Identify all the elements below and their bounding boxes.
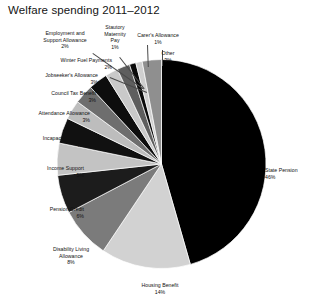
slice-label-statutory-maternity-pct: 1% xyxy=(111,44,119,50)
slice-label-employment-support-pct: 2% xyxy=(61,43,69,49)
slice-label-attendance-allowance-name: Attendance Allowance xyxy=(39,110,90,116)
slice-label-state-pension-name: State Pension xyxy=(265,167,298,173)
slice-label-pension-credit: Pension Credit6% xyxy=(16,206,84,219)
slice-label-pension-credit-name: Pension Credit xyxy=(50,206,84,212)
slice-label-employment-support-name: Employment and Support Allowance xyxy=(43,30,86,43)
slice-label-pension-credit-pct: 6% xyxy=(76,213,84,219)
slice-label-housing-benefit-pct: 14% xyxy=(155,289,165,295)
slice-label-incapacity-benefit-pct: 4% xyxy=(76,142,84,148)
slice-label-winter-fuel: Winter Fuel Payments2% xyxy=(30,57,112,70)
slice-label-other: Other3% xyxy=(151,50,185,63)
slice-label-state-pension-pct: 46% xyxy=(265,174,275,180)
slice-label-jobseekers-pct: 3% xyxy=(90,79,98,85)
slice-label-income-support-name: Income Support xyxy=(47,165,84,171)
slice-label-attendance-allowance-pct: 3% xyxy=(82,117,90,123)
slice-label-incapacity-benefit: Incapacity Benefit4% xyxy=(8,135,84,148)
slice-label-incapacity-benefit-name: Incapacity Benefit xyxy=(43,135,84,141)
slice-label-disability-living-pct: 8% xyxy=(67,259,75,265)
slice-label-other-pct: 3% xyxy=(164,57,172,63)
slice-label-winter-fuel-pct: 2% xyxy=(104,64,112,70)
slice-label-jobseekers: Jobseeker's Allowance3% xyxy=(12,72,98,85)
slice-label-other-name: Other xyxy=(161,50,174,56)
slice-label-income-support-pct: 5% xyxy=(76,172,84,178)
slice-label-winter-fuel-name: Winter Fuel Payments xyxy=(61,57,112,63)
slice-label-jobseekers-name: Jobseeker's Allowance xyxy=(45,72,98,78)
slice-label-employment-support: Employment and Support Allowance2% xyxy=(32,30,98,50)
slice-label-disability-living-name: Disability Living Allowance xyxy=(53,246,89,259)
slice-label-carers-allowance: Carer's Allowance1% xyxy=(129,32,187,45)
slice-label-council-tax-pct: 3% xyxy=(88,97,96,103)
slice-label-statutory-maternity-name: Stautory Maternity Pay xyxy=(104,24,126,43)
slice-label-carers-allowance-name: Carer's Allowance xyxy=(137,32,179,38)
slice-label-income-support: Income Support5% xyxy=(14,165,84,178)
slice-label-state-pension: State Pension46% xyxy=(265,167,321,180)
slice-label-housing-benefit: Housing Benefit14% xyxy=(123,282,197,295)
slice-label-carers-allowance-pct: 1% xyxy=(154,39,162,45)
slice-label-council-tax-name: Council Tax Benefit xyxy=(51,90,96,96)
slice-label-disability-living: Disability Living Allowance8% xyxy=(35,246,107,266)
slice-label-housing-benefit-name: Housing Benefit xyxy=(142,282,179,288)
slice-label-council-tax: Council Tax Benefit3% xyxy=(16,90,96,103)
pie-chart: State Pension46% Housing Benefit14% Disa… xyxy=(0,0,323,304)
slice-label-attendance-allowance: Attendance Allowance3% xyxy=(6,110,90,123)
